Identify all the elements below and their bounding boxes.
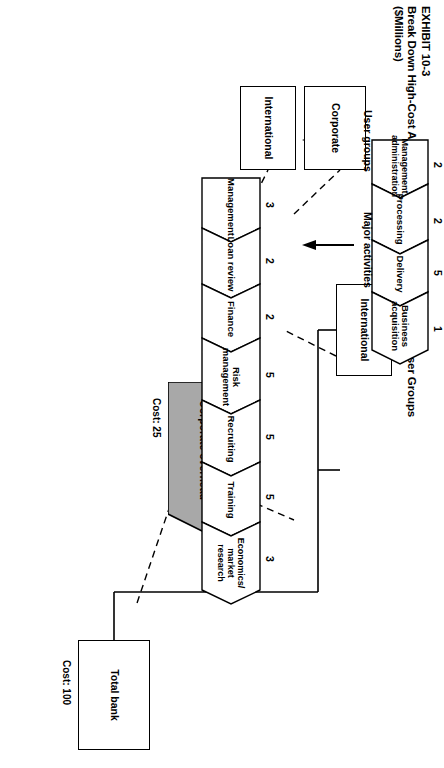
user-group-box-international[interactable]: International <box>240 86 296 170</box>
total-bank-label: Total bank <box>108 669 120 721</box>
overhead-activity-label-3: Risk management <box>202 346 260 408</box>
international-activity-label-0: Management administration <box>372 142 428 190</box>
user-group-label-0: International <box>262 96 274 159</box>
international-activity-value-1: 2 <box>432 218 444 224</box>
overhead-activity-label-4: Recruiting <box>202 408 260 470</box>
overhead-activity-label-0: Management <box>202 180 260 234</box>
international-label: International <box>358 298 370 361</box>
international-activity-band: Management administration Processing Del… <box>372 140 428 364</box>
overhead-activity-label-6: Economics/ market research <box>202 530 260 596</box>
overhead-activity-value-1: 2 <box>264 258 276 264</box>
node-total-bank[interactable]: Total bank <box>78 640 150 750</box>
overhead-activity-value-0: 3 <box>264 202 276 208</box>
user-group-box-corporate[interactable]: Corporate <box>304 86 366 170</box>
overhead-activity-value-2: 2 <box>264 314 276 320</box>
international-activity-label-3: Business acquisition <box>372 298 428 354</box>
overhead-activity-value-5: 5 <box>264 494 276 500</box>
total-bank-cost: Cost: 100 <box>61 660 72 705</box>
overhead-activity-value-4: 5 <box>264 434 276 440</box>
international-activity-label-1: Processing <box>372 190 428 248</box>
overhead-activity-label-5: Training <box>202 470 260 530</box>
annotation-user-groups: User groups <box>362 110 374 172</box>
overhead-activity-value-3: 5 <box>264 372 276 378</box>
overhead-activity-value-6: 3 <box>264 556 276 562</box>
international-activity-value-0: 2 <box>432 162 444 168</box>
annotation-major-activities: Major activities <box>362 212 374 288</box>
international-activity-label-2: Delivery <box>372 248 428 300</box>
user-group-label-1: Corporate <box>329 103 341 153</box>
overhead-activity-label-2: Finance <box>202 292 260 346</box>
overhead-activity-label-1: Loan review <box>202 236 260 292</box>
corporate-overhead-cost: Cost: 25 <box>151 398 162 437</box>
international-activity-value-2: 5 <box>432 270 444 276</box>
overhead-activity-band: Management Loan review Finance Risk mana… <box>202 178 260 606</box>
international-activity-value-3: 1 <box>432 326 444 332</box>
